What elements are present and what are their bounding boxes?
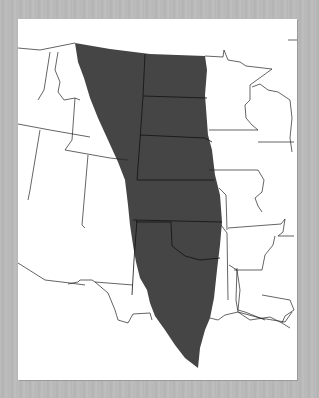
map-svg [18,19,297,380]
great-plains-region [75,43,222,368]
map-frame: Great Plains region of North America [18,19,297,380]
state-borders-east [205,40,297,328]
